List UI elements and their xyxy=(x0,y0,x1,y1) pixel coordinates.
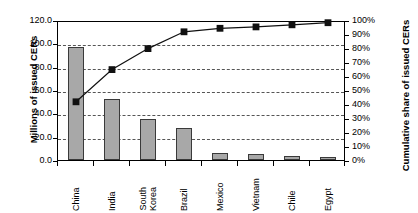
x-axis-category-label: Chile xyxy=(287,190,297,211)
y-axis-left-tick-label: 0.0 xyxy=(18,155,52,165)
x-axis-category-label: Mexico xyxy=(215,182,225,211)
cumulative-line-markers xyxy=(73,19,332,105)
x-axis-category-label: China xyxy=(71,187,81,211)
line-marker xyxy=(109,66,116,73)
y-axis-right-tick-label: 20% xyxy=(352,127,388,137)
y-axis-right-tick-label: 80% xyxy=(352,43,388,53)
line-marker xyxy=(289,21,296,28)
x-axis-category-label: Vietnam xyxy=(251,178,261,211)
x-axis-category-label: India xyxy=(107,191,117,211)
line-marker xyxy=(217,25,224,32)
x-axis-category-label: Egypt xyxy=(323,188,333,211)
y-axis-right-tick-label: 100% xyxy=(352,15,388,25)
y-axis-right-tick-label: 50% xyxy=(352,85,388,95)
pareto-chart: Millions of issued CERs Cumulative share… xyxy=(0,0,418,213)
cumulative-line-series xyxy=(58,22,346,162)
y-axis-right-tick-label: 40% xyxy=(352,99,388,109)
y-axis-right-tick-label: 90% xyxy=(352,29,388,39)
y-axis-left-tick-label: 100.0 xyxy=(18,38,52,48)
line-marker xyxy=(253,24,260,31)
y-axis-right-tick-label: 30% xyxy=(352,113,388,123)
y-axis-right-tick-label: 10% xyxy=(352,141,388,151)
x-axis-category-label: Brazil xyxy=(179,188,189,211)
y-axis-right-tick-label: 0% xyxy=(352,155,388,165)
cumulative-line-path xyxy=(76,23,328,102)
y-axis-left-tick-label: 60.0 xyxy=(18,85,52,95)
y-axis-left-tick-label: 120.0 xyxy=(18,15,52,25)
y-axis-left-tick-label: 40.0 xyxy=(18,108,52,118)
y-axis-right-tick-label: 70% xyxy=(352,57,388,67)
line-marker xyxy=(145,45,152,52)
line-marker xyxy=(181,28,188,35)
y-axis-right-title: Cumulative share of issued CERs xyxy=(400,6,411,186)
x-axis-labels: ChinaIndiaSouth KoreaBrazilMexicoVietnam… xyxy=(57,166,345,213)
line-marker xyxy=(325,19,332,26)
y-axis-right-tick-label: 60% xyxy=(352,71,388,81)
y-axis-left-tick-label: 80.0 xyxy=(18,62,52,72)
line-marker xyxy=(73,98,80,105)
y-axis-left-tick-label: 20.0 xyxy=(18,132,52,142)
plot-area xyxy=(57,21,345,161)
x-axis-category-label: South Korea xyxy=(138,187,158,211)
